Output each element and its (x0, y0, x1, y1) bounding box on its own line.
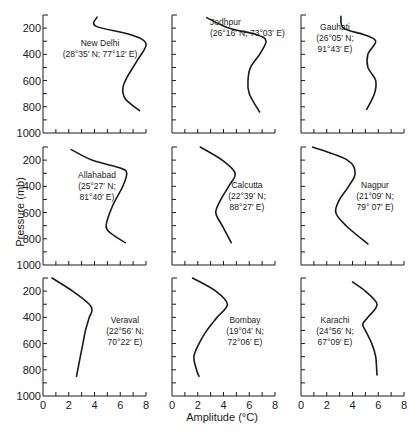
x-tick-label: 0 (298, 399, 304, 411)
panel-bombay: 02468Bombay(19°04′ N;72°06′ E) (169, 278, 278, 411)
x-tick-label: 8 (272, 399, 278, 411)
x-tick-label: 6 (375, 399, 381, 411)
x-tick-label: 2 (195, 399, 201, 411)
panels-container: 2004006008001000New Delhi(28°35′ N; 77°1… (17, 15, 408, 411)
x-tick-label: 4 (91, 399, 97, 411)
y-tick-label: 200 (23, 154, 41, 166)
station-label: Allahabad(25°27′ N;81°40′ E) (78, 170, 116, 202)
station-label: Calcutta(22°39′ N;88°27′ E) (228, 180, 266, 212)
x-tick-label: 0 (169, 399, 175, 411)
x-tick-label: 6 (117, 399, 123, 411)
y-tick-label: 1000 (17, 259, 41, 271)
y-tick-label: 1000 (17, 127, 41, 139)
x-tick-label: 8 (143, 399, 149, 411)
y-axis-title: Pressure (mb) (14, 177, 26, 247)
station-label: New Delhi(28°35′ N; 77°12′ E) (63, 38, 138, 59)
station-label: Veraval(22°56′ N;70°22′ E) (106, 315, 144, 347)
y-tick-label: 800 (23, 364, 41, 376)
y-tick-label: 600 (23, 338, 41, 350)
amplitude-pressure-small-multiples: 2004006008001000New Delhi(28°35′ N; 77°1… (0, 0, 420, 431)
panel-jodhpur: Jodhpur(26°16′ N; 73°03′ E) (172, 15, 285, 133)
amplitude-curve (94, 17, 147, 111)
y-tick-label: 800 (23, 101, 41, 113)
y-tick-label: 600 (23, 75, 41, 87)
x-axis-title: Amplitude (°C) (186, 411, 258, 423)
axes (43, 15, 146, 133)
panel-nagpur: Nagpur(21°09′ N;79° 07′ E) (301, 147, 404, 265)
panel-gauhati: Gauhati(26°05′ N;91°43′ E) (301, 15, 404, 133)
y-tick-label: 200 (23, 22, 41, 34)
x-tick-label: 2 (66, 399, 72, 411)
y-tick-label: 400 (23, 48, 41, 60)
x-tick-label: 6 (246, 399, 252, 411)
station-label: Bombay(19°04′ N;72°06′ E) (226, 315, 264, 347)
y-tick-label: 200 (23, 285, 41, 297)
panel-karachi: 02468Karachi(24°56′ N;67°09′ E) (298, 278, 407, 411)
x-tick-label: 2 (324, 399, 330, 411)
panel-calcutta: Calcutta(22°39′ N;88°27′ E) (172, 147, 275, 265)
panel-veraval: 200400600800100002468Veraval(22°56′ N;70… (17, 278, 150, 411)
x-tick-label: 8 (401, 399, 407, 411)
station-label: Nagpur(21°09′ N;79° 07′ E) (356, 180, 394, 212)
station-label: Gauhati(26°05′ N;91°43′ E) (316, 22, 354, 54)
station-label: Jodhpur(26°16′ N; 73°03′ E) (210, 17, 285, 38)
amplitude-curve (353, 282, 378, 375)
amplitude-curve (52, 278, 92, 376)
panel-allahabad: 2004006008001000Allahabad(25°27′ N;81°40… (17, 147, 146, 271)
x-tick-label: 4 (220, 399, 226, 411)
station-label: Karachi(24°56′ N;67°09′ E) (316, 315, 354, 347)
panel-new-delhi: 2004006008001000New Delhi(28°35′ N; 77°1… (17, 15, 147, 139)
y-tick-label: 400 (23, 311, 41, 323)
x-tick-label: 4 (349, 399, 355, 411)
axes (301, 278, 404, 396)
y-tick-label: 1000 (17, 390, 41, 402)
axes (43, 147, 146, 265)
amplitude-curve (193, 278, 228, 376)
x-tick-label: 0 (40, 399, 46, 411)
